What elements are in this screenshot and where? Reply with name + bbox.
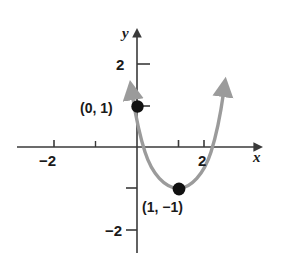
point-label-1-neg1: (1, −1) [142, 200, 183, 214]
parabola-right-branch [179, 93, 224, 189]
x-tick-label-pos2: 2 [198, 153, 206, 168]
x-tick-label-neg2: −2 [39, 153, 56, 168]
y-axis-label: y [122, 26, 129, 41]
y-tick-label-pos2: 2 [116, 57, 124, 72]
y-tick-label-neg2: −2 [105, 223, 122, 238]
x-axis-label: x [253, 150, 261, 165]
graph-figure: y x −2 2 2 −2 (0, 1) (1, −1) [0, 0, 284, 253]
point-label-0-1: (0, 1) [80, 101, 113, 115]
point-0-1 [131, 100, 143, 112]
coordinate-plane-svg [0, 0, 284, 253]
point-1-neg1 [173, 183, 186, 196]
